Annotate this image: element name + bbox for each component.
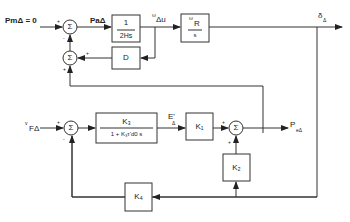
k2-label: K₂ bbox=[223, 164, 250, 172]
inertia-den: 2Hs bbox=[112, 32, 140, 39]
eq-sub: Δ bbox=[172, 121, 175, 126]
s4-sign-plus-1: + bbox=[222, 120, 225, 125]
pa-label: PaΔ bbox=[90, 17, 106, 25]
summer-3-symbol: Σ bbox=[65, 124, 77, 132]
s1-sign-minus: - bbox=[63, 36, 65, 41]
inertia-num: 1 bbox=[112, 19, 140, 27]
k4-label: K₄ bbox=[125, 193, 152, 201]
block-diagram-wiring bbox=[0, 0, 350, 222]
pm-input-label: PmΔ = 0 bbox=[5, 17, 37, 25]
s2-sign-plus-1: + bbox=[86, 51, 89, 56]
field-den: 1 + K₃τ'd0 s bbox=[96, 131, 157, 137]
summer-1-symbol: Σ bbox=[64, 23, 76, 31]
field-num: K₃ bbox=[96, 118, 157, 126]
delta-feedback-line bbox=[72, 27, 317, 197]
s1-sign-plus: + bbox=[57, 19, 60, 24]
pe-label: P bbox=[290, 121, 295, 129]
s4-sign-plus-2: + bbox=[228, 140, 231, 145]
s3-sign-plus: + bbox=[57, 120, 60, 125]
omega-du-label: Δu bbox=[156, 16, 166, 24]
integrator-den: s bbox=[181, 32, 209, 38]
delta-label: δ bbox=[318, 12, 322, 20]
damping-feedback-line bbox=[141, 27, 155, 58]
damping-label: D bbox=[112, 54, 140, 62]
s2-sign-plus-2: + bbox=[63, 67, 66, 72]
integrator-num: R bbox=[186, 20, 208, 28]
summer-4-symbol: Σ bbox=[230, 124, 242, 132]
summer-2-symbol: Σ bbox=[64, 54, 76, 62]
s3-sign-minus: - bbox=[63, 137, 65, 142]
vf-sub: FΔ bbox=[29, 125, 39, 133]
k1-label: K₁ bbox=[186, 123, 213, 131]
vf-label: v bbox=[25, 121, 28, 126]
pe-sub: eΔ bbox=[296, 128, 302, 133]
delta-sub: Δ bbox=[323, 18, 326, 23]
